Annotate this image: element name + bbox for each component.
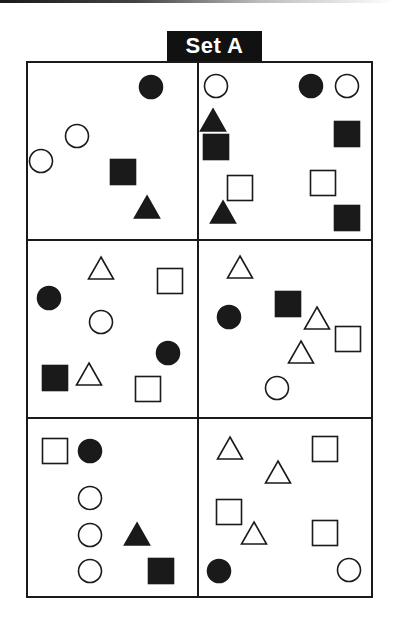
filled-square-icon [335,122,360,147]
filled-triangle-icon [135,196,160,218]
filled-square-icon [204,135,229,160]
open-triangle-icon [242,522,267,544]
filled-triangle-icon [211,201,236,223]
cell-r3c1 [43,439,174,584]
filled-square-icon [43,366,68,391]
open-circle-icon [205,75,228,98]
filled-circle-icon [79,440,102,463]
open-square-icon [217,500,242,525]
open-square-icon [313,521,338,546]
open-triangle-icon [89,257,114,279]
open-square-icon [228,176,253,201]
filled-triangle-icon [201,109,226,131]
open-circle-icon [90,311,113,334]
open-triangle-icon [228,256,253,278]
open-square-icon [311,171,336,196]
filled-square-icon [111,160,136,185]
open-triangle-icon [266,461,291,483]
open-triangle-icon [289,341,314,363]
filled-square-icon [149,559,174,584]
cell-r1c2 [201,75,360,231]
open-triangle-icon [305,307,330,329]
cell-r2c1 [38,257,183,402]
open-square-icon [158,269,183,294]
open-circle-icon [79,560,102,583]
filled-circle-icon [218,306,241,329]
open-square-icon [336,327,361,352]
filled-circle-icon [157,342,180,365]
shape-grid [0,0,396,631]
open-square-icon [136,377,161,402]
filled-square-icon [276,292,301,317]
open-circle-icon [66,125,89,148]
filled-circle-icon [300,75,323,98]
filled-circle-icon [208,560,231,583]
filled-square-icon [335,206,360,231]
open-square-icon [313,437,338,462]
open-circle-icon [30,150,53,173]
open-circle-icon [338,559,361,582]
cell-r1c1 [30,76,163,219]
open-circle-icon [336,75,359,98]
filled-circle-icon [38,287,61,310]
open-triangle-icon [218,437,243,459]
open-circle-icon [79,524,102,547]
open-circle-icon [266,377,289,400]
cell-r3c2 [208,437,361,583]
open-square-icon [43,439,68,464]
filled-triangle-icon [125,523,150,545]
open-circle-icon [79,487,102,510]
grid-shapes [30,75,361,584]
filled-circle-icon [140,76,163,99]
open-triangle-icon [77,363,102,385]
cell-r2c2 [218,256,361,400]
